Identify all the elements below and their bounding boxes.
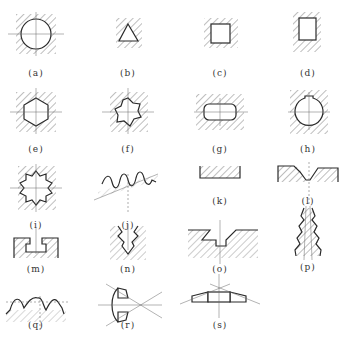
hexagonal-hole-figure [0,84,76,140]
panel-label: (b) [88,68,168,78]
panel-o: (o) [180,214,260,270]
panel-f: (f) [88,84,168,140]
multi-notch-hole-figure [88,84,168,140]
panel-i: (i) [0,160,76,216]
panel-label: (c) [180,68,260,78]
keyed-circular-hole-figure [268,84,348,140]
panel-g: (g) [180,84,260,140]
panel-label: (a) [0,68,76,78]
panel-label: (m) [0,264,76,274]
panel-k: (k) [180,160,260,216]
oblong-hole-figure [180,84,260,140]
panel-j: (j) [88,160,168,216]
gear-rack-profile-figure [88,160,168,216]
panel-label: (l) [268,196,348,206]
dovetail-groove-figure [180,214,260,270]
panel-h: (h) [268,84,348,140]
panel-c: (c) [180,6,260,62]
panel-label: (o) [180,264,260,274]
panel-label: (s) [170,320,270,330]
panel-b: (b) [88,6,168,62]
triangular-hole-figure [88,6,168,62]
flat-surface-figure [180,160,260,216]
tapered-thread-figure [268,206,348,262]
panel-label: (n) [88,264,168,274]
panel-a: (a) [0,6,76,62]
panel-d: (d) [268,6,348,62]
panel-m: (m) [0,224,76,280]
panel-s: (s) [170,274,270,330]
panel-label: (h) [268,144,348,154]
panel-q: (q) [0,282,76,338]
panel-label: (r) [88,320,168,330]
panel-label: (k) [180,196,260,206]
panel-p: (p) [268,206,348,262]
panel-label: (d) [268,68,348,78]
panel-label: (e) [0,144,76,154]
square-hole-figure [180,6,260,62]
panel-e: (e) [0,84,76,140]
rectangular-hole-figure [268,6,348,62]
panel-r: (r) [88,282,168,338]
panel-n: (n) [88,224,168,280]
circular-hole-figure [0,6,76,62]
internal-spline-figure [0,160,76,216]
panel-label: (g) [180,144,260,154]
panel-label: (f) [88,144,168,154]
panel-label: (q) [0,320,76,330]
panel-label: (p) [268,262,348,272]
